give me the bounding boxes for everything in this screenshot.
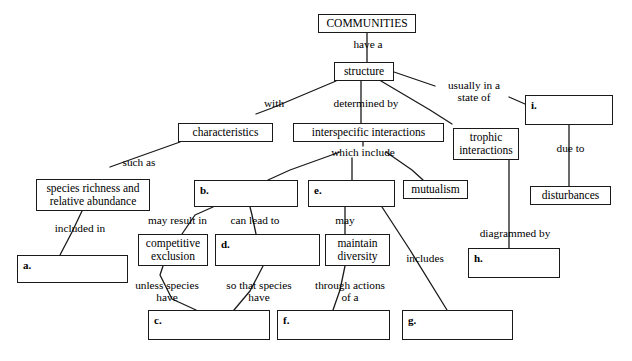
link-label-includes: includes <box>399 252 451 264</box>
node-label-box_c: c. <box>154 314 162 326</box>
link-label-which_include: which include <box>322 146 404 158</box>
node-box_f[interactable]: f. <box>277 310 390 340</box>
link-label-may: may <box>330 214 360 226</box>
node-box_d[interactable]: d. <box>215 234 320 266</box>
link-label-due_to: due to <box>548 142 593 154</box>
link-label-included_in: included in <box>47 222 113 234</box>
link-label-diagrammed_by: diagrammed by <box>470 227 560 239</box>
node-box_c[interactable]: c. <box>148 310 270 340</box>
link-label-with: with <box>256 97 292 109</box>
node-label-mutualism: mutualism <box>406 183 465 196</box>
link-label-so_that_species_have: so that species have <box>215 279 303 304</box>
node-label-trophic: trophic interactions <box>454 131 518 157</box>
node-mutualism[interactable]: mutualism <box>403 180 468 199</box>
link-label-may_result_in: may result in <box>139 214 216 226</box>
node-box_b[interactable]: b. <box>194 180 298 207</box>
link-label-unless_species_have: unless species have <box>125 279 209 304</box>
link-label-have_a: have a <box>342 38 394 50</box>
node-label-box_d: d. <box>221 238 230 250</box>
node-maintain[interactable]: maintain diversity <box>325 234 390 266</box>
node-label-species_richness: species richness and relative abundance <box>41 182 144 208</box>
node-label-box_a: a. <box>23 259 31 271</box>
node-structure[interactable]: structure <box>334 62 394 81</box>
node-competitive[interactable]: competitive exclusion <box>138 234 208 266</box>
node-box_i[interactable]: i. <box>525 95 613 125</box>
node-label-maintain: maintain diversity <box>332 237 382 263</box>
link-label-can_lead_to: can lead to <box>222 214 288 226</box>
connector-structure-usually <box>394 72 435 86</box>
node-label-box_g: g. <box>408 314 416 326</box>
link-label-such_as: such as <box>116 156 162 168</box>
node-label-box_e: e. <box>314 184 322 196</box>
node-label-disturbances: disturbances <box>537 189 604 202</box>
link-label-usually_in_a: usually in a state of <box>438 79 510 104</box>
node-box_a[interactable]: a. <box>17 255 128 283</box>
node-label-box_i: i. <box>531 99 537 111</box>
node-label-communities: COMMUNITIES <box>321 17 412 30</box>
link-label-determined_by: determined by <box>325 97 407 109</box>
node-label-interspecific: interspecific interactions <box>307 126 430 139</box>
node-trophic[interactable]: trophic interactions <box>453 128 519 160</box>
node-label-box_h: h. <box>474 252 483 264</box>
node-label-box_f: f. <box>283 314 289 326</box>
connector-usually-box_i <box>509 97 525 104</box>
node-label-competitive: competitive exclusion <box>141 237 205 263</box>
node-communities[interactable]: COMMUNITIES <box>318 14 416 33</box>
link-label-through_actions_of_a: through actions of a <box>304 279 396 304</box>
node-characteristics[interactable]: characteristics <box>178 123 273 142</box>
concept-map-canvas: COMMUNITIESstructurecharacteristicsinter… <box>0 0 632 361</box>
node-disturbances[interactable]: disturbances <box>530 186 611 205</box>
node-label-box_b: b. <box>200 184 209 196</box>
node-species_richness[interactable]: species richness and relative abundance <box>36 179 150 211</box>
node-box_e[interactable]: e. <box>308 180 395 207</box>
node-box_g[interactable]: g. <box>402 310 513 340</box>
node-box_h[interactable]: h. <box>468 248 560 278</box>
node-label-structure: structure <box>339 65 389 78</box>
node-label-characteristics: characteristics <box>188 126 264 139</box>
node-interspecific[interactable]: interspecific interactions <box>293 123 444 142</box>
